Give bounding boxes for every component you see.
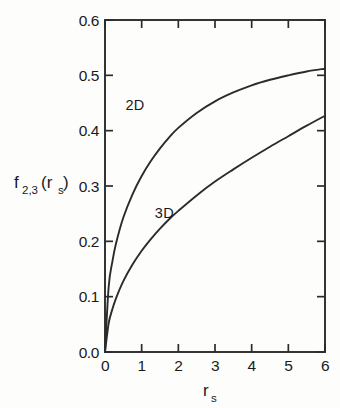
y-tick-label: 0.1 [79, 288, 99, 305]
curve-3d [105, 116, 325, 352]
figure-panel: 0.60.50.40.30.20.10.0 0123456 2D 3D f 2,… [0, 0, 340, 408]
y-axis-label-f: f [14, 173, 19, 192]
x-tick-label: 5 [284, 357, 292, 374]
x-tick-label: 4 [248, 357, 257, 374]
y-tick-label: 0.0 [79, 344, 100, 361]
x-tick-label: 0 [101, 357, 110, 374]
axis-ticks [105, 20, 325, 352]
x-tick-label: 6 [321, 357, 329, 374]
y-axis-label-paren-r: (r [41, 173, 53, 192]
plot-frame [105, 20, 325, 352]
curve-label-3d: 3D [155, 205, 174, 221]
y-axis-label-paren-close: ) [63, 173, 69, 192]
x-axis-label-r: r [203, 381, 209, 400]
x-axis-label: r s [203, 381, 217, 404]
x-axis-label-sub-s: s [211, 392, 217, 404]
y-tick-label: 0.2 [79, 233, 99, 250]
y-tick-label: 0.3 [79, 178, 99, 195]
x-tick-label: 1 [138, 357, 146, 374]
y-tick-label: 0.4 [79, 122, 100, 139]
x-tick-label: 3 [211, 357, 219, 374]
x-tick-labels: 0123456 [101, 357, 329, 374]
y-tick-label: 0.5 [79, 67, 99, 84]
y-tick-labels: 0.60.50.40.30.20.10.0 [79, 12, 100, 361]
y-tick-label: 0.6 [79, 12, 99, 29]
y-axis-label: f 2,3 (r s ) [14, 173, 69, 196]
x-tick-label: 2 [174, 357, 182, 374]
curve-label-2d: 2D [125, 97, 144, 113]
y-axis-label-sub-23: 2,3 [22, 184, 38, 196]
line-chart: 0.60.50.40.30.20.10.0 0123456 2D 3D f 2,… [0, 0, 340, 408]
